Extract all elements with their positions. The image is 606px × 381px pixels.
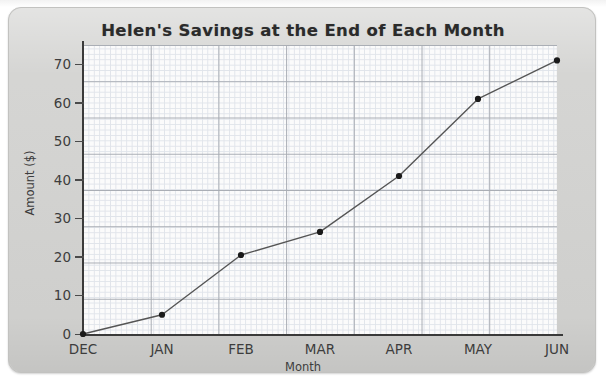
data-point	[80, 331, 86, 337]
chart-screenshot: Helen's Savings at the End of Each Month…	[0, 0, 606, 381]
scan-edge	[0, 0, 606, 7]
savings-line	[83, 60, 557, 334]
data-point	[396, 173, 402, 179]
data-point	[475, 96, 481, 102]
data-point	[159, 312, 165, 318]
data-series	[9, 8, 597, 374]
savings-markers	[80, 57, 560, 337]
chart-card: Helen's Savings at the End of Each Month…	[8, 7, 596, 373]
data-point	[238, 252, 244, 258]
data-point	[554, 57, 560, 63]
data-point	[317, 229, 323, 235]
